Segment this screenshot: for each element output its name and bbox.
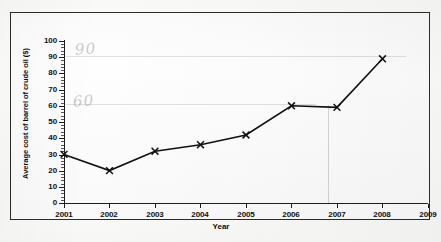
x-axis-title: Year	[11, 222, 431, 231]
data-series	[11, 13, 431, 221]
chart-frame: 90 60 Average cost of barrel of crude oi…	[10, 12, 430, 220]
series-markers	[61, 55, 386, 174]
data-point-marker	[379, 55, 386, 62]
scanned-page: 90 60 Average cost of barrel of crude oi…	[0, 0, 441, 242]
series-line	[64, 59, 383, 171]
